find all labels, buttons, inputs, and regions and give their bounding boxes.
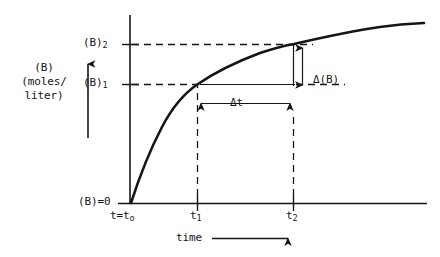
y-axis-label-line-1: (B) — [6, 61, 82, 75]
reaction-rate-figure: (B) (moles/ liter) (B)2 (B)1 (B)=0 t=to … — [0, 0, 440, 257]
concentration-curve — [131, 23, 424, 203]
delta-t-label: Δt — [230, 96, 243, 109]
origin-label: (B)=0 — [78, 195, 111, 208]
y-axis-label-line-2: (moles/ — [6, 75, 82, 89]
y-axis-label-line-3: liter) — [6, 89, 82, 103]
y-tick-label-B1: (B)1 — [83, 76, 108, 92]
x-tick-label-t2-sub: 2 — [293, 213, 298, 223]
delta-b-label: Δ(B) — [313, 73, 339, 86]
x-tick-label-t0: t=to — [110, 209, 135, 225]
x-tick-label-t0-base: t=t — [110, 209, 130, 222]
x-tick-label-t1-sub: 1 — [197, 213, 202, 223]
x-axis-label: time — [176, 231, 202, 244]
y-tick-label-B2: (B)2 — [83, 36, 108, 52]
y-tick-label-B1-base: (B) — [83, 76, 103, 89]
x-tick-label-t2: t2 — [286, 209, 298, 225]
x-tick-label-t1: t1 — [190, 209, 202, 225]
y-tick-label-B1-sub: 1 — [103, 80, 108, 90]
x-tick-label-t0-sub: o — [130, 213, 135, 223]
plot-canvas — [0, 0, 440, 257]
y-tick-label-B2-base: (B) — [83, 36, 103, 49]
y-tick-label-B2-sub: 2 — [103, 40, 108, 50]
y-axis-label: (B) (moles/ liter) — [6, 61, 82, 103]
